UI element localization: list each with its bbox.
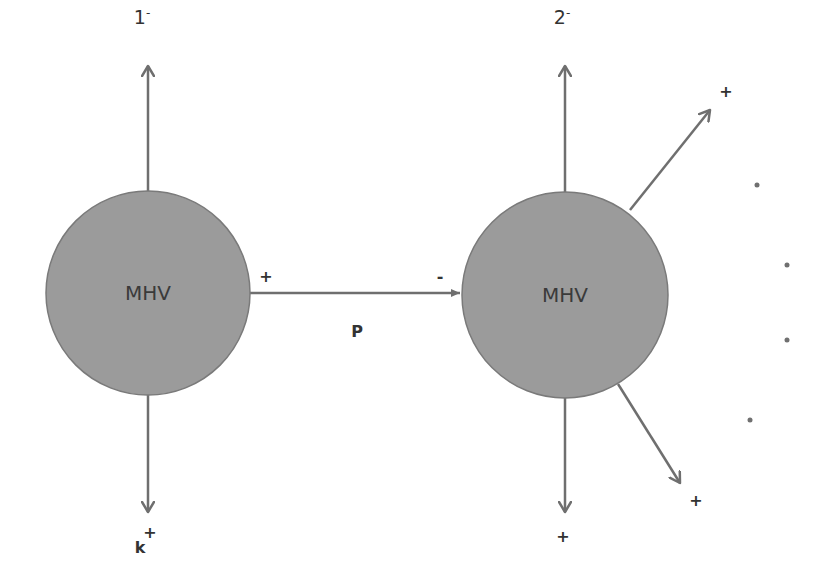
ellipsis-dots [748, 183, 790, 423]
propagator-label: P [351, 322, 363, 341]
ellipsis-dot [785, 263, 790, 268]
left-mhv-node: MHV [46, 191, 250, 395]
mhv-diagram-canvas: MHV MHV 1- 2- k + + + + + - P [0, 0, 826, 587]
right-lower-diagonal-label: + [689, 491, 702, 510]
ellipsis-dot [785, 338, 790, 343]
right-lower-diagonal-leg [618, 384, 680, 483]
left-top-sup: - [146, 6, 150, 20]
ellipsis-dot [755, 183, 760, 188]
right-top-number: 2 [554, 6, 566, 28]
left-top-number: 1 [134, 6, 146, 28]
right-node-label: MHV [542, 283, 588, 307]
ellipsis-dot [748, 418, 753, 423]
propagator-start-sign: + [259, 267, 272, 286]
right-upper-diagonal-leg [630, 110, 710, 210]
left-bottom-sup: + [143, 523, 156, 542]
left-top-label: 1- [134, 6, 150, 28]
right-upper-diagonal-label: + [719, 82, 732, 101]
left-node-label: MHV [125, 281, 171, 305]
right-mhv-node: MHV [462, 192, 668, 398]
right-bottom-label: + [556, 527, 569, 546]
right-top-sup: - [566, 6, 570, 20]
propagator-end-sign: - [437, 267, 444, 286]
right-top-label: 2- [554, 6, 570, 28]
